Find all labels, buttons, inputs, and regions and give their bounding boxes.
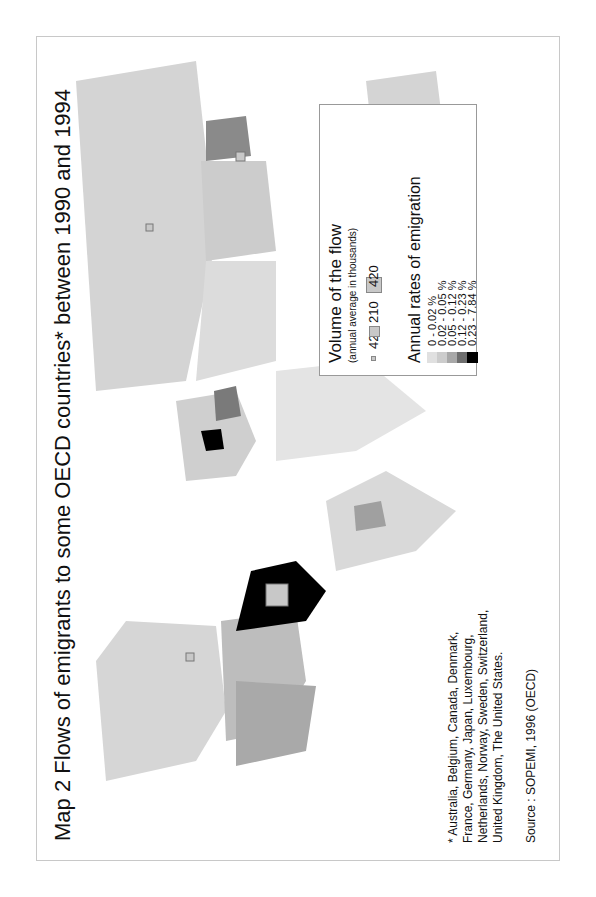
footnote: * Australia, Belgium, Canada, Denmark, F… [446,593,506,843]
map-title: Map 2 Flows of emigrants to some OECD co… [50,89,76,841]
legend-square-small [371,356,376,361]
legend-volume-title: Volume of the flow [326,224,346,363]
legend-square-medium [369,326,380,337]
legend-volume-420: 420 [366,265,381,287]
legend-volume-subtitle: (annual average in thousands) [347,228,358,363]
legend-box: Volume of the flow (annual average in th… [319,104,477,376]
swatch-5 [467,352,478,363]
legend-rate-row: 0.23 - 7.84 % [466,281,478,363]
rotated-map-page: Map 2 Flows of emigrants to some OECD co… [36,36,560,861]
source-note: Source : SOPEMI, 1996 (OECD) [524,669,538,843]
legend-rates-title: Annual rates of emigration [406,176,424,363]
legend-volume-210: 210 [366,301,381,323]
